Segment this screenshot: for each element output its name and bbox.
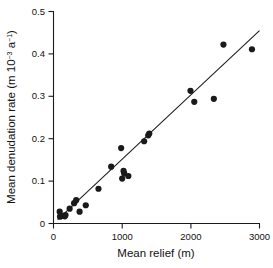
- x-tick-label: 0: [51, 231, 56, 242]
- chart-figure: 0 0.1 0.2 0.3 0.4 0.5 0 1000 2000 3000 M…: [0, 0, 273, 268]
- data-point: [73, 197, 79, 203]
- data-point: [187, 88, 193, 94]
- scatter-plot-svg: 0 0.1 0.2 0.3 0.4 0.5 0 1000 2000 3000 M…: [0, 0, 273, 268]
- x-tick-label: 1000: [112, 231, 133, 242]
- y-tick-labels: 0 0.1 0.2 0.3 0.4 0.5: [32, 6, 45, 229]
- axis-spines: [54, 12, 260, 224]
- x-tick-labels: 0 1000 2000 3000: [51, 231, 270, 242]
- data-point: [95, 186, 101, 192]
- data-point: [125, 173, 131, 179]
- y-axis-title-exponent-1: −3: [6, 51, 13, 59]
- x-tick-label: 2000: [180, 231, 201, 242]
- x-tick-marks: [54, 224, 260, 229]
- y-tick-label: 0.3: [32, 90, 45, 101]
- data-point: [191, 99, 197, 105]
- y-tick-label: 0.2: [32, 133, 45, 144]
- data-point: [220, 41, 226, 47]
- y-axis-title-lead: Mean denudation rate (m 10: [5, 59, 17, 203]
- data-point: [83, 202, 89, 208]
- data-point: [108, 164, 114, 170]
- regression-trend-line: [58, 31, 260, 220]
- y-tick-label: 0: [40, 218, 45, 229]
- x-tick-label: 3000: [249, 231, 270, 242]
- y-tick-label: 0.5: [32, 6, 45, 17]
- y-axis-title-exponent-2: −1: [6, 34, 13, 42]
- data-point: [76, 209, 82, 215]
- y-axis-title-tail: ): [5, 30, 17, 34]
- data-point: [146, 131, 152, 137]
- data-point: [62, 212, 68, 218]
- x-axis-title: Mean relief (m): [117, 247, 194, 259]
- data-point: [118, 145, 124, 151]
- y-tick-label: 0.4: [32, 48, 45, 59]
- data-point: [211, 96, 217, 102]
- data-point: [249, 46, 255, 52]
- y-tick-label: 0.1: [32, 175, 45, 186]
- data-point: [141, 138, 147, 144]
- y-tick-marks: [49, 12, 54, 224]
- y-axis-title: Mean denudation rate (m 10−3 a−1): [5, 30, 17, 204]
- data-point: [67, 206, 73, 212]
